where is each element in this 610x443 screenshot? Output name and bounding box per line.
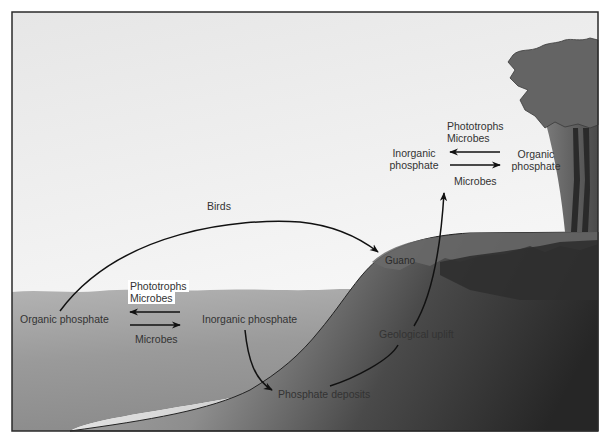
guano-label: Guano xyxy=(385,255,415,267)
sea-inorganic-phosphate-label: Inorganic phosphate xyxy=(202,313,297,325)
birds-label: Birds xyxy=(207,200,231,212)
land-inorganic-line2: phosphate xyxy=(388,159,440,171)
land-organic-line2: phosphate xyxy=(508,160,564,172)
land-organic-phosphate-label: Organic phosphate xyxy=(508,148,564,172)
land-microbes-bottom-label: Microbes xyxy=(454,175,497,187)
land-phototrophs-label: Phototrophs xyxy=(447,120,504,132)
sea-phototrophs-label: Phototrophs xyxy=(128,280,189,292)
land-microbes-top-label: Microbes xyxy=(447,132,490,144)
phosphate-deposits-label: Phosphate deposits xyxy=(278,388,370,400)
phosphorus-cycle-diagram xyxy=(0,0,610,443)
land-inorganic-line1: Inorganic xyxy=(388,147,440,159)
sea-organic-phosphate-label: Organic phosphate xyxy=(20,313,109,325)
land-organic-line1: Organic xyxy=(508,148,564,160)
sea-microbes-bottom-label: Microbes xyxy=(135,333,178,345)
geological-uplift-label: Geological uplift xyxy=(379,328,454,340)
land-inorganic-phosphate-label: Inorganic phosphate xyxy=(388,147,440,171)
sea-microbes-top-label: Microbes xyxy=(128,292,175,304)
